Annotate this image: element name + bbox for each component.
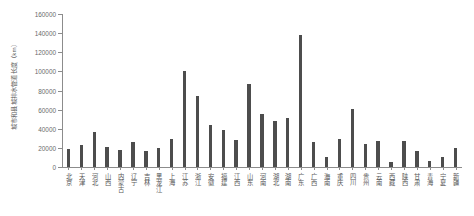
- bar-chart: 城市和县城排水管道长度（km） 020000400006000080000100…: [0, 0, 474, 216]
- plot-area: 0200004000060000800001000001200001400001…: [62, 14, 462, 167]
- x-tick-label: 吉林: [143, 173, 149, 186]
- x-tick-mark: [365, 167, 366, 170]
- x-tick-mark: [327, 167, 328, 170]
- bar-slot: [75, 14, 88, 167]
- bar-slot: [268, 14, 281, 167]
- x-tick-label: 重庆: [336, 173, 342, 186]
- x-tick-mark: [430, 167, 431, 170]
- bar: [415, 151, 418, 167]
- bar-slot: [88, 14, 101, 167]
- y-tick-label: 20000: [38, 144, 56, 151]
- bar: [209, 125, 212, 167]
- x-tick-mark: [456, 167, 457, 170]
- x-tick-mark: [120, 167, 121, 170]
- x-tick-mark: [68, 167, 69, 170]
- bar-slot: [320, 14, 333, 167]
- bar: [364, 144, 367, 167]
- bar-slot: [243, 14, 256, 167]
- bar: [247, 84, 250, 167]
- bar: [454, 148, 457, 167]
- bar: [118, 150, 121, 167]
- bar-slot: [307, 14, 320, 167]
- bar: [222, 130, 225, 167]
- bar: [183, 71, 186, 167]
- x-tick-label: 西藏: [388, 173, 394, 186]
- x-tick-label: 浙江: [194, 173, 200, 186]
- bar: [312, 142, 315, 167]
- bar: [234, 140, 237, 167]
- x-tick-label: 山东: [246, 173, 252, 186]
- x-tick-label: 宁夏: [439, 173, 445, 186]
- bar: [80, 145, 83, 167]
- bar: [441, 157, 444, 167]
- bar: [376, 141, 379, 167]
- bar: [157, 148, 160, 167]
- bar-slot: [256, 14, 269, 167]
- y-tick-label: 100000: [35, 68, 56, 75]
- x-tick-mark: [339, 167, 340, 170]
- x-tick-label: 青海: [427, 173, 433, 186]
- bar-slot: [333, 14, 346, 167]
- y-tick-label: 60000: [38, 106, 56, 113]
- bar-slot: [436, 14, 449, 167]
- bar-slot: [410, 14, 423, 167]
- x-tick-label: 四川: [349, 173, 355, 186]
- x-tick-label: 黑龙江: [156, 173, 162, 192]
- x-tick-label: 江西: [233, 173, 239, 186]
- x-tick-label: 天津: [78, 173, 84, 186]
- bar: [93, 132, 96, 167]
- y-tick-label: 160000: [35, 11, 56, 18]
- x-tick-mark: [223, 167, 224, 170]
- bar: [402, 141, 405, 167]
- bar-slot: [204, 14, 217, 167]
- bar-slot: [359, 14, 372, 167]
- bar-slot: [152, 14, 165, 167]
- bar: [273, 121, 276, 167]
- x-tick-mark: [197, 167, 198, 170]
- x-tick-label: 新疆: [452, 173, 458, 186]
- bar: [105, 147, 108, 167]
- x-tick-mark: [146, 167, 147, 170]
- x-tick-mark: [417, 167, 418, 170]
- bar-slot: [372, 14, 385, 167]
- x-tick-mark: [133, 167, 134, 170]
- x-tick-label: 广东: [298, 173, 304, 186]
- x-tick-mark: [185, 167, 186, 170]
- bar: [351, 109, 354, 167]
- x-tick-mark: [159, 167, 160, 170]
- bar-slot: [230, 14, 243, 167]
- x-tick-label: 内蒙古: [117, 173, 123, 192]
- bar: [170, 139, 173, 167]
- bar-slot: [127, 14, 140, 167]
- x-tick-label: 广西: [310, 173, 316, 186]
- x-tick-label: 甘肃: [414, 173, 420, 186]
- x-axis-ticks: 北京天津河北山西内蒙古辽宁吉林黑龙江上海江苏浙江安徽福建江西山东河南湖北湖南广东…: [62, 167, 462, 216]
- x-tick-label: 山西: [104, 173, 110, 186]
- bar-slot: [346, 14, 359, 167]
- x-tick-mark: [275, 167, 276, 170]
- bar: [325, 157, 328, 167]
- bar-slot: [281, 14, 294, 167]
- bar: [338, 139, 341, 167]
- x-tick-label: 河北: [91, 173, 97, 186]
- x-tick-label: 云南: [375, 173, 381, 186]
- x-tick-label: 江苏: [181, 173, 187, 186]
- bar-slot: [397, 14, 410, 167]
- x-tick-mark: [378, 167, 379, 170]
- x-tick-label: 陕西: [401, 173, 407, 186]
- bar-slot: [294, 14, 307, 167]
- x-tick-mark: [391, 167, 392, 170]
- x-tick-label: 上海: [169, 173, 175, 186]
- x-tick-label: 湖南: [285, 173, 291, 186]
- x-tick-mark: [262, 167, 263, 170]
- bar: [299, 35, 302, 167]
- x-tick-mark: [94, 167, 95, 170]
- x-tick-label: 贵州: [362, 173, 368, 186]
- x-tick-label: 海南: [323, 173, 329, 186]
- bar-slot: [139, 14, 152, 167]
- x-tick-label: 北京: [65, 173, 71, 186]
- x-tick-mark: [314, 167, 315, 170]
- y-tick-label: 0: [52, 164, 56, 171]
- x-tick-label: 福建: [220, 173, 226, 186]
- bar-slot: [217, 14, 230, 167]
